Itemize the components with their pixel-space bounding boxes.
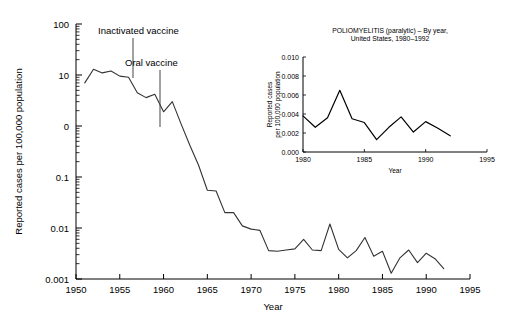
x-tick-label: 1955 [109, 284, 130, 295]
x-tick-label: 1960 [153, 284, 174, 295]
y-tick-label: 0.01 [51, 223, 70, 234]
inset-x-tick-label: 1980 [295, 156, 311, 163]
x-tick-label: 1965 [197, 284, 218, 295]
inset-title-line2: United States, 1980–1992 [351, 35, 430, 42]
inset-y-tick-label: 0.004 [281, 111, 299, 118]
y-tick-label: 0.001 [45, 274, 69, 285]
x-tick-label: 1950 [65, 284, 86, 295]
x-axis-title: Year [263, 301, 282, 312]
inset-panel-background [244, 22, 510, 188]
inset-title-line1: POLIOMYELITIS (paralytic) – By year, [332, 27, 448, 35]
inset-x-axis-title: Year [388, 167, 402, 174]
annotation-label: Inactivated vaccine [98, 25, 179, 36]
x-tick-label: 1975 [284, 284, 305, 295]
inset-y-tick-label: 0.008 [281, 73, 299, 80]
inset-y-tick-label: 0.006 [281, 92, 299, 99]
x-tick-label: 1970 [241, 284, 262, 295]
y-tick-label: 0 [64, 121, 69, 132]
x-tick-label: 1990 [416, 284, 437, 295]
inset-y-tick-label: 0.010 [281, 54, 299, 61]
x-tick-label: 1980 [328, 284, 349, 295]
inset-y-axis-title-line1: Reported cases [266, 81, 274, 127]
y-tick-label: 0.1 [56, 172, 69, 183]
y-axis-title: Reported cases per 100,000 population [13, 68, 24, 234]
x-tick-label: 1985 [372, 284, 393, 295]
inset-x-tick-label: 1990 [418, 156, 434, 163]
y-tick-label: 100 [53, 19, 69, 30]
inset-y-tick-label: 0.002 [281, 130, 299, 137]
inset-x-tick-label: 1995 [479, 156, 495, 163]
inset-y-axis-title-line2: per 100,000 population [274, 71, 282, 138]
annotation-label: Oral vaccine [125, 57, 178, 68]
x-tick-label: 1995 [459, 284, 480, 295]
poliomyelitis-chart-svg: 1001000.10.010.0011950195519601965197019… [0, 0, 512, 329]
y-tick-label: 10 [58, 70, 69, 81]
inset-y-tick-label: 0.000 [281, 149, 299, 156]
chart-figure: 1001000.10.010.0011950195519601965197019… [0, 0, 512, 329]
inset-x-tick-label: 1985 [357, 156, 373, 163]
